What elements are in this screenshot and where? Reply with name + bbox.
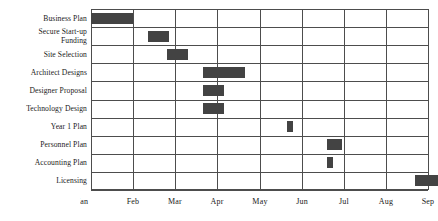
gridline-vertical — [386, 9, 387, 190]
x-axis-tick — [217, 186, 218, 190]
x-axis-label: Sep — [408, 197, 438, 207]
x-axis-tick — [260, 186, 261, 190]
gridline-vertical — [133, 9, 134, 190]
gantt-bar — [203, 67, 245, 78]
x-axis: JanFebMarAprMayJunJulAugSep — [91, 190, 428, 221]
task-label: Architect Designs — [0, 68, 87, 77]
gridline-vertical — [344, 9, 345, 190]
gantt-bar — [91, 13, 133, 24]
task-label: Personnel Plan — [0, 140, 87, 149]
x-axis-label: May — [240, 197, 280, 207]
gantt-bar — [148, 31, 169, 42]
gantt-bar — [203, 85, 224, 96]
task-label-column: Business PlanSecure Start-up FundingSite… — [0, 9, 87, 190]
gantt-plot-area — [91, 9, 428, 190]
x-axis-tick — [428, 186, 429, 190]
x-axis-tick — [344, 186, 345, 190]
gantt-bar — [415, 175, 438, 186]
x-axis-label: Aug — [366, 197, 406, 207]
x-axis-label: Apr — [197, 197, 237, 207]
task-label: Business Plan — [0, 14, 87, 23]
x-axis-label: Jan — [80, 197, 100, 207]
x-axis-tick — [133, 186, 134, 190]
gridline-vertical — [91, 9, 92, 190]
task-label: Accounting Plan — [0, 158, 87, 167]
task-label: Secure Start-up Funding — [0, 27, 87, 45]
gantt-bar — [203, 103, 224, 114]
task-label: Licensing — [0, 176, 87, 185]
gantt-chart: Business PlanSecure Start-up FundingSite… — [0, 0, 438, 221]
x-axis-label: Mar — [155, 197, 195, 207]
x-axis-tick — [175, 186, 176, 190]
gantt-bar — [167, 49, 188, 60]
task-label: Site Selection — [0, 50, 87, 59]
gridline-vertical — [175, 9, 176, 190]
x-axis-label: Feb — [113, 197, 153, 207]
gridline-vertical — [428, 9, 429, 190]
x-axis-tick — [91, 186, 92, 190]
gantt-bar — [327, 157, 333, 168]
gridline-vertical — [217, 9, 218, 190]
x-axis-label: Jun — [282, 197, 322, 207]
x-axis-tick — [302, 186, 303, 190]
gantt-bar — [287, 121, 293, 132]
task-label: Designer Proposal — [0, 86, 87, 95]
gridline-vertical — [302, 9, 303, 190]
gantt-bar — [327, 139, 342, 150]
x-axis-label: Jul — [324, 197, 364, 207]
task-label: Technology Design — [0, 104, 87, 113]
task-label: Year 1 Plan — [0, 122, 87, 131]
x-axis-tick — [386, 186, 387, 190]
gridline-vertical — [260, 9, 261, 190]
